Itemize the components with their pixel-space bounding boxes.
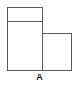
figure-panel: A: [0, 0, 79, 87]
figure-label: A: [0, 72, 79, 83]
